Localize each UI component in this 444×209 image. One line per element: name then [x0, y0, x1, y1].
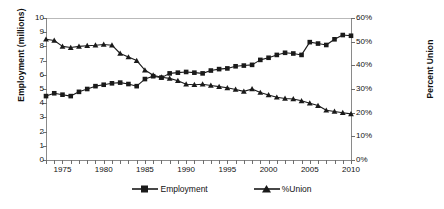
y-tick-right	[351, 136, 355, 137]
y-tick-label-left: 1	[4, 142, 44, 150]
x-tick-label: 1995	[207, 166, 247, 174]
x-tick	[269, 160, 270, 164]
x-tick	[326, 160, 327, 164]
x-tick	[219, 160, 220, 164]
x-tick-label: 2010	[331, 166, 371, 174]
x-tick	[194, 160, 195, 164]
x-tick	[178, 160, 179, 164]
square-marker-icon	[132, 184, 158, 194]
x-tick-label: 1980	[84, 166, 124, 174]
x-tick	[260, 160, 261, 164]
x-tick	[137, 160, 138, 164]
x-tick	[252, 160, 253, 164]
y-tick-label-right: 0%	[356, 156, 396, 164]
x-tick	[203, 160, 204, 164]
legend-label-union: %Union	[282, 184, 312, 194]
y-tick-label-right: 50%	[356, 38, 396, 46]
y-tick-label-left: 4	[4, 99, 44, 107]
x-tick	[244, 160, 245, 164]
x-tick-label: 1975	[42, 166, 82, 174]
legend-entry-employment: Employment	[132, 184, 207, 194]
y-tick-right	[351, 42, 355, 43]
y-tick-label-right: 30%	[356, 85, 396, 93]
x-tick	[54, 160, 55, 164]
y-tick-label-right: 10%	[356, 132, 396, 140]
x-tick-label: 1985	[125, 166, 165, 174]
x-tick	[236, 160, 237, 164]
y-tick-label-left: 8	[4, 42, 44, 50]
y-tick-right	[351, 18, 355, 19]
employment-union-chart: Employment (millions) Percent Union 0123…	[0, 0, 444, 209]
x-tick	[277, 160, 278, 164]
y-tick-right	[351, 65, 355, 66]
x-tick	[186, 160, 187, 164]
x-tick-label: 1990	[166, 166, 206, 174]
x-tick	[87, 160, 88, 164]
x-tick	[128, 160, 129, 164]
y-tick-label-right: 40%	[356, 61, 396, 69]
x-tick	[145, 160, 146, 164]
y-tick-right	[351, 113, 355, 114]
y-axis-right-title: Percent Union	[425, 9, 435, 129]
y-tick-label-right: 60%	[356, 14, 396, 22]
triangle-marker-icon	[254, 184, 280, 194]
x-tick-label: 2005	[290, 166, 330, 174]
y-tick-label-left: 2	[4, 128, 44, 136]
x-tick	[71, 160, 72, 164]
legend-entry-union: %Union	[254, 184, 312, 194]
x-tick	[79, 160, 80, 164]
y-tick-label-left: 7	[4, 57, 44, 65]
x-tick	[310, 160, 311, 164]
x-tick	[104, 160, 105, 164]
x-tick	[211, 160, 212, 164]
y-tick-label-left: 6	[4, 71, 44, 79]
x-tick	[351, 160, 352, 164]
x-tick	[46, 160, 47, 164]
x-tick	[343, 160, 344, 164]
y-tick-label-left: 5	[4, 85, 44, 93]
x-tick	[335, 160, 336, 164]
x-tick	[62, 160, 63, 164]
y-tick-label-left: 3	[4, 113, 44, 121]
x-tick	[285, 160, 286, 164]
x-tick	[120, 160, 121, 164]
x-tick	[318, 160, 319, 164]
x-tick-label: 2000	[249, 166, 289, 174]
x-tick	[293, 160, 294, 164]
x-tick	[95, 160, 96, 164]
y-tick-right	[351, 89, 355, 90]
y-tick-label-left: 0	[4, 156, 44, 164]
x-tick	[112, 160, 113, 164]
x-tick	[170, 160, 171, 164]
x-tick	[227, 160, 228, 164]
chart-legend: Employment %Union	[0, 184, 444, 194]
y-tick-label-left: 10	[4, 14, 44, 22]
x-tick	[153, 160, 154, 164]
y-tick-label-right: 20%	[356, 109, 396, 117]
plot-area	[46, 18, 351, 161]
x-tick	[302, 160, 303, 164]
y-tick-label-left: 9	[4, 28, 44, 36]
x-tick	[161, 160, 162, 164]
x-axis-line	[46, 160, 352, 161]
legend-label-employment: Employment	[160, 184, 207, 194]
